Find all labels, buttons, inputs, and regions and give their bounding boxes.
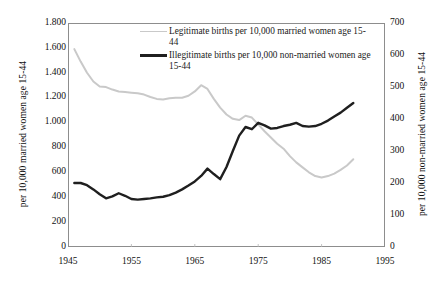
tick-label: 1995	[365, 256, 405, 266]
tick-label: 300	[390, 145, 404, 155]
tick-label: 200	[52, 216, 66, 226]
tick-label: 700	[390, 17, 404, 27]
legend-label: Illegitimate births per 10,000 non-marri…	[169, 50, 372, 73]
tick-label: 0	[61, 241, 66, 251]
chart-container: per 10,000 married women age 15-44 per 1…	[0, 0, 448, 286]
left-axis-title: per 10,000 married women age 15-44	[18, 34, 28, 234]
tick-label: 400	[390, 113, 404, 123]
legend-line-swatch	[140, 26, 167, 37]
legend-entry: Illegitimate births per 10,000 non-marri…	[140, 50, 372, 73]
tick-label: 1.000	[45, 116, 66, 126]
tick-label: 1945	[48, 256, 88, 266]
legend-line-swatch	[140, 50, 167, 61]
tick-label: 1955	[111, 256, 151, 266]
tick-label: 1.400	[45, 67, 66, 77]
tick-label: 600	[52, 166, 66, 176]
tick-label: 400	[52, 191, 66, 201]
tick-label: 1.200	[45, 91, 66, 101]
tick-label: 200	[390, 177, 404, 187]
tick-label: 600	[390, 49, 404, 59]
tick-label: 1985	[302, 256, 342, 266]
right-axis-title: per 10,000 non-married women age 15-44	[417, 34, 427, 234]
tick-label: 0	[390, 241, 395, 251]
tick-label: 500	[390, 81, 404, 91]
tick-label: 800	[52, 141, 66, 151]
legend-label: Legitimate births per 10,000 married wom…	[169, 26, 372, 49]
legend-entry: Legitimate births per 10,000 married wom…	[140, 26, 372, 49]
tick-label: 1.800	[45, 17, 66, 27]
tick-label: 1975	[238, 256, 278, 266]
tick-label: 1.600	[45, 42, 66, 52]
chart-legend: Legitimate births per 10,000 married wom…	[140, 26, 372, 74]
tick-label: 1965	[175, 256, 215, 266]
tick-label: 100	[390, 209, 404, 219]
data-series-line	[74, 103, 353, 200]
